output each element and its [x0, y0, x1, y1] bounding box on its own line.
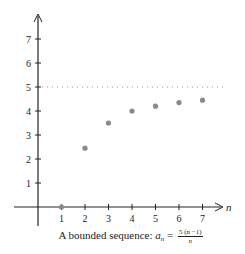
- y-tick-label: 2: [26, 154, 31, 165]
- x-tick-label: 2: [83, 213, 88, 224]
- y-ticks: 1234567: [26, 34, 41, 189]
- data-point: [82, 146, 87, 151]
- y-tick-label: 4: [26, 106, 31, 117]
- formula-numerator: 5 (n −1): [178, 228, 203, 237]
- y-tick-label: 6: [26, 58, 31, 69]
- y-tick-label: 7: [26, 34, 31, 45]
- data-point: [153, 104, 158, 109]
- x-tick-label: 6: [177, 213, 182, 224]
- data-point: [59, 204, 64, 209]
- formula-equals: =: [164, 229, 176, 241]
- formula-fraction: 5 (n −1)n: [178, 228, 203, 245]
- data-point: [129, 108, 134, 113]
- x-axis-label: n: [226, 201, 232, 213]
- data-points: [59, 98, 205, 210]
- axes: n: [14, 14, 232, 226]
- data-point: [200, 98, 205, 103]
- y-tick-label: 5: [26, 82, 31, 93]
- x-tick-label: 1: [59, 213, 64, 224]
- x-tick-label: 4: [130, 213, 135, 224]
- y-tick-label: 3: [26, 130, 31, 141]
- caption-text: A bounded sequence:: [58, 229, 155, 241]
- sequence-plot: n 1234567 1234567: [0, 0, 245, 226]
- x-tick-label: 5: [153, 213, 158, 224]
- data-point: [106, 120, 111, 125]
- y-tick-label: 1: [26, 178, 31, 189]
- data-point: [176, 100, 181, 105]
- x-tick-label: 3: [106, 213, 111, 224]
- formula-denominator: n: [178, 237, 203, 245]
- chart-caption: A bounded sequence: an = 5 (n −1)n: [0, 228, 245, 245]
- x-tick-label: 7: [200, 213, 205, 224]
